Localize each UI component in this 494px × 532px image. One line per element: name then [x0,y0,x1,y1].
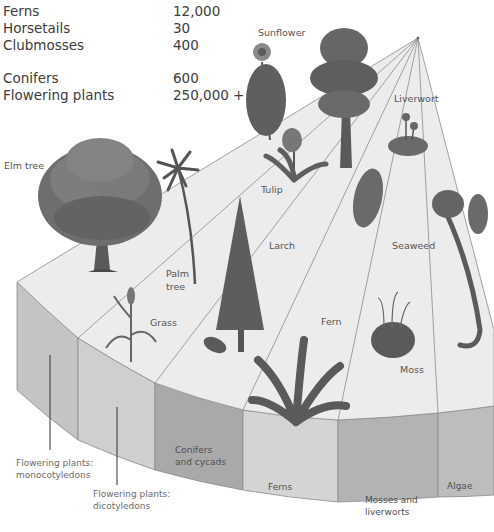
apex-point [417,37,420,40]
segment-label-line1: Mosses and [365,494,418,506]
segment-label-line1: Ferns [268,481,292,493]
label-liverwort: Liverwort [394,93,439,105]
segment-label-line1: Flowering plants: [16,457,93,469]
segment-label-conifers: Conifers and cycads [175,444,226,468]
wall-segment-mosses [338,413,438,502]
segment-label-line2: and cycads [175,456,226,468]
segment-label-mosses: Mosses and liverworts [365,494,418,518]
label-fern: Fern [321,316,342,328]
label-seaweed: Seaweed [392,240,435,252]
segment-label-monocots: Flowering plants: monocotyledons [16,457,93,481]
label-palm-tree-line1: Palm [166,268,189,280]
label-tulip: Tulip [261,184,283,196]
label-grass: Grass [150,317,177,329]
segment-label-ferns: Ferns [268,481,292,493]
plant-kingdom-fan-diagram [0,0,494,532]
sunflower-illustration [246,43,286,140]
label-sunflower: Sunflower [258,27,305,39]
segment-label-line2: liverworts [365,506,418,518]
segment-label-line1: Algae [447,480,472,492]
segment-label-line2: dicotyledons [93,500,170,512]
segment-label-line1: Conifers [175,444,226,456]
label-elm-tree: Elm tree [4,160,44,172]
segment-label-line2: monocotyledons [16,469,93,481]
segment-label-algae: Algae [447,480,472,492]
label-palm-tree-line2: tree [166,281,185,293]
segment-label-line1: Flowering plants: [93,488,170,500]
label-moss: Moss [400,364,424,376]
label-larch: Larch [269,240,295,252]
segment-label-dicots: Flowering plants: dicotyledons [93,488,170,512]
